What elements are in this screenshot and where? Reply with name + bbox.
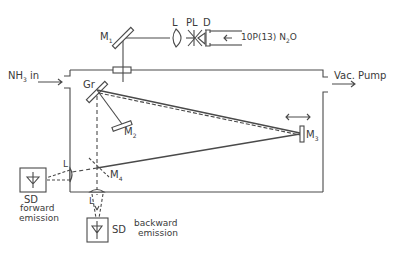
label-m4: M4: [110, 170, 122, 182]
label-vac-pump: Vac. Pump: [334, 71, 386, 81]
input-arrow: [224, 35, 232, 41]
label-nh3: NH3 in: [8, 71, 39, 83]
label-source: 10P(13) N2O: [241, 33, 297, 44]
label-grating: Gr: [83, 80, 95, 90]
label-m1: M1: [100, 32, 112, 44]
label-m3: M3: [306, 130, 318, 142]
lens-top: [173, 29, 181, 47]
chamber-left-wall: [64, 70, 70, 76]
label-pl: PL: [186, 18, 198, 28]
label-m2: M2: [124, 127, 136, 139]
label-backward: backward: [134, 219, 178, 228]
optical-schematic: [0, 0, 403, 256]
label-lens-backward: L: [89, 197, 94, 206]
label-lens-top: L: [172, 18, 178, 28]
nh3-arrow: [38, 79, 62, 85]
m3-mirror: [300, 126, 304, 142]
translation-arrow: [286, 114, 310, 120]
top-window: [113, 67, 131, 73]
lens-backward: [90, 190, 104, 193]
label-lens-forward: L: [63, 160, 68, 169]
chamber-top-wall: [70, 70, 328, 77]
label-d: D: [203, 18, 211, 28]
vac-arrow: [332, 81, 355, 87]
label-forward: forward: [20, 204, 55, 213]
chamber-right-wall: [323, 92, 328, 192]
label-backward-emission: emission: [138, 229, 178, 238]
label-forward-emission: emission: [19, 214, 59, 223]
label-sd-backward: SD: [112, 225, 126, 235]
lens-forward: [70, 168, 72, 182]
